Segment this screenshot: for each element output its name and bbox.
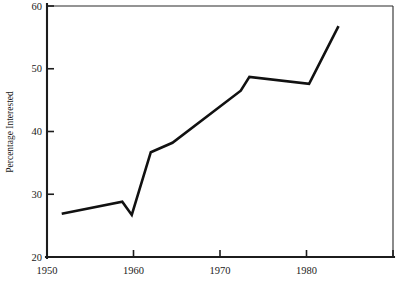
x-tick-label: 1970	[210, 265, 231, 276]
y-axis-title: Percentage Interested	[5, 91, 15, 173]
y-tick-label: 60	[32, 1, 43, 12]
plot-frame	[47, 6, 393, 257]
y-tick-label: 40	[32, 126, 43, 137]
line-chart: 2030405060 1950196019701980 Percentage I…	[0, 0, 399, 288]
y-tick-label: 30	[32, 189, 43, 200]
data-series-percentage-interested	[62, 26, 339, 215]
x-tick-label: 1950	[37, 265, 58, 276]
x-axis-ticks: 1950196019701980	[37, 250, 394, 276]
y-tick-label: 20	[32, 252, 43, 263]
chart-canvas: 2030405060 1950196019701980 Percentage I…	[0, 0, 399, 288]
x-tick-label: 1960	[123, 265, 144, 276]
x-tick-label: 1980	[296, 265, 317, 276]
y-tick-label: 50	[32, 63, 43, 74]
axes	[46, 4, 394, 258]
y-axis-ticks: 2030405060	[32, 1, 55, 263]
